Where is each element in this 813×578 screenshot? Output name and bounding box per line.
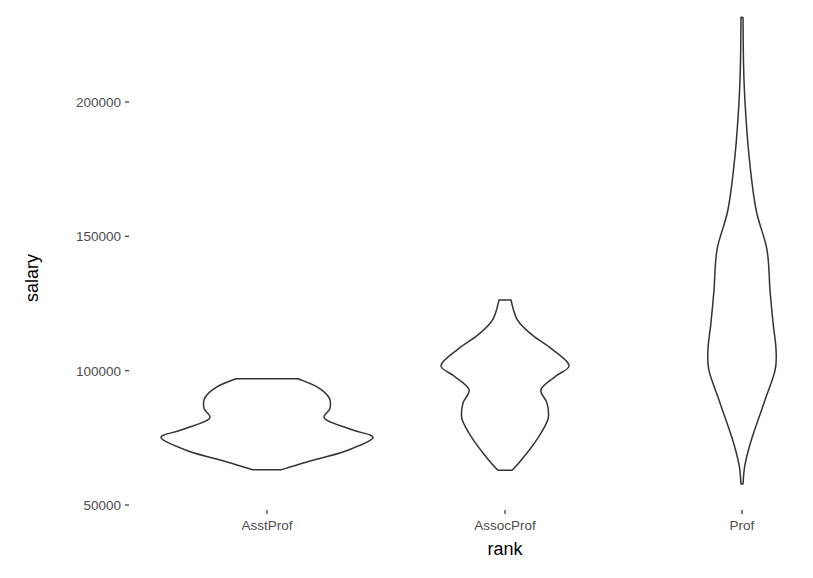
x-axis: AsstProfAssocProfProf rank <box>241 510 754 559</box>
x-tick-label-prof: Prof <box>730 518 755 533</box>
y-tick-label: 150000 <box>76 229 121 244</box>
x-tick-label-assocprof: AssocProf <box>474 518 536 533</box>
y-axis-title: salary <box>22 254 42 302</box>
x-axis-title: rank <box>487 539 523 559</box>
x-tick-label-asstprof: AsstProf <box>241 518 292 533</box>
violin-chart: 50000100000150000200000 salary AsstProfA… <box>0 0 813 578</box>
y-tick-label: 100000 <box>76 364 121 379</box>
plot-panel <box>161 17 776 484</box>
violins-layer <box>161 17 776 484</box>
y-tick-label: 50000 <box>83 498 121 513</box>
violin-prof <box>708 17 777 484</box>
violin-assocprof <box>441 300 569 470</box>
violin-asstprof <box>161 379 373 470</box>
y-axis: 50000100000150000200000 salary <box>22 95 129 513</box>
y-tick-label: 200000 <box>76 95 121 110</box>
